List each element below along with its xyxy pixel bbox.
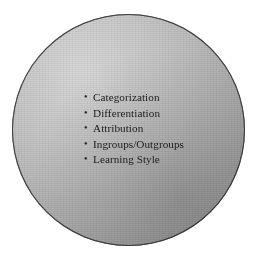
bullet-icon: • (84, 137, 88, 152)
concept-list: • Categorization • Differentiation • Att… (84, 90, 184, 168)
bullet-icon: • (84, 121, 88, 136)
bullet-icon: • (84, 90, 88, 105)
list-item-label: Learning Style (93, 153, 160, 165)
list-item-label: Categorization (93, 91, 160, 103)
bullet-icon: • (84, 152, 88, 167)
list-item-label: Attribution (93, 122, 143, 134)
list-item-label: Differentiation (93, 107, 160, 119)
bullet-icon: • (84, 106, 88, 121)
list-item: • Categorization (84, 90, 184, 105)
figure-canvas: • Categorization • Differentiation • Att… (0, 0, 259, 255)
list-item: • Learning Style (84, 152, 184, 167)
list-item: • Ingroups/Outgroups (84, 137, 184, 152)
list-item: • Differentiation (84, 106, 184, 121)
list-item: • Attribution (84, 121, 184, 136)
list-item-label: Ingroups/Outgroups (93, 138, 184, 150)
